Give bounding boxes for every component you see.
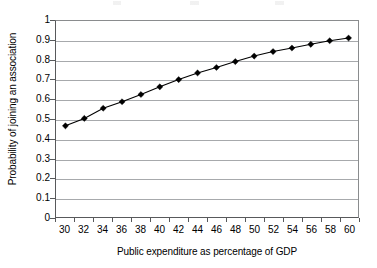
data-point: [327, 38, 333, 44]
y-tick-label: 0.7: [15, 74, 55, 84]
y-tick-label: 0.5: [15, 114, 55, 124]
x-axis-title: Public expenditure as percentage of GDP: [55, 246, 359, 257]
plot-area: [55, 20, 359, 218]
data-point: [62, 123, 68, 129]
data-point: [232, 59, 238, 65]
y-tick-label: 0.3: [15, 154, 55, 164]
data-point: [194, 70, 200, 76]
y-tick-label: 0.8: [15, 55, 55, 65]
data-point: [176, 77, 182, 83]
data-point: [157, 84, 163, 90]
x-tick-label: 60: [335, 224, 365, 236]
x-tick-mark: [131, 218, 132, 222]
x-tick-mark: [112, 218, 113, 222]
data-point: [81, 115, 87, 121]
x-tick-mark: [93, 218, 94, 222]
x-tick-mark: [264, 218, 265, 222]
x-tick-mark: [150, 218, 151, 222]
x-tick-mark: [55, 218, 56, 222]
data-series: [56, 21, 358, 217]
data-point: [308, 41, 314, 47]
y-tick-label: 0.9: [15, 35, 55, 45]
y-tick-label: 0: [15, 213, 55, 223]
x-tick-mark: [226, 218, 227, 222]
series-line: [65, 38, 348, 126]
data-point: [213, 64, 219, 70]
x-tick-mark: [283, 218, 284, 222]
y-tick-label: 1: [15, 15, 55, 25]
data-point: [251, 53, 257, 59]
y-tick-label: 0.4: [15, 134, 55, 144]
x-tick-mark: [188, 218, 189, 222]
chart-figure: Probability of joining an association 00…: [0, 0, 377, 268]
y-tick-label: 0.2: [15, 173, 55, 183]
x-tick-mark: [321, 218, 322, 222]
x-tick-mark: [169, 218, 170, 222]
data-point: [289, 45, 295, 51]
data-point: [270, 49, 276, 55]
x-tick-mark: [245, 218, 246, 222]
x-tick-mark: [359, 218, 360, 222]
data-point: [119, 99, 125, 105]
x-tick-mark: [340, 218, 341, 222]
data-point: [138, 91, 144, 97]
data-point: [100, 105, 106, 111]
y-tick-label: 0.6: [15, 94, 55, 104]
y-axis-title: Probability of joining an association: [4, 0, 20, 218]
series-markers: [62, 35, 351, 129]
x-tick-mark: [302, 218, 303, 222]
data-point: [345, 35, 351, 41]
x-tick-mark: [74, 218, 75, 222]
x-tick-mark: [207, 218, 208, 222]
scan-artifact: [95, 1, 310, 5]
y-tick-label: 0.1: [15, 193, 55, 203]
